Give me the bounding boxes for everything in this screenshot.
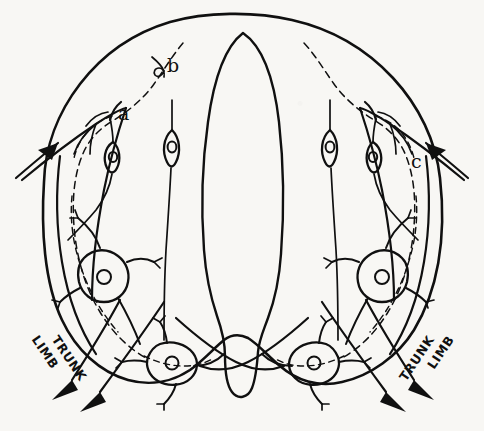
left-dorsal-root-fibers [22, 102, 126, 180]
tract-arrow-right-trunk [322, 302, 406, 412]
figure-root: a b c LIMB TRUNK LIMB TRUNK [0, 0, 484, 431]
marker-b-hook [152, 57, 164, 77]
central-canal [202, 33, 283, 397]
dashed-pathways [71, 43, 416, 366]
neuron-left-bipolar [68, 118, 119, 240]
afferent-arrow-upper-left [16, 143, 58, 178]
neuron-left-medial-bipolar [164, 100, 179, 340]
label-a: a [118, 102, 129, 124]
neuron-right-bipolar [367, 118, 418, 240]
label-b: b [167, 54, 179, 76]
neuron-right-motor [262, 316, 371, 410]
label-c: c [411, 150, 422, 172]
neuron-left-motor [115, 316, 224, 410]
tract-arrow-left-trunk [80, 302, 164, 412]
anatomical-diagram: a b c LIMB TRUNK LIMB TRUNK [0, 0, 484, 431]
afferent-arrow-upper-right [426, 143, 468, 178]
